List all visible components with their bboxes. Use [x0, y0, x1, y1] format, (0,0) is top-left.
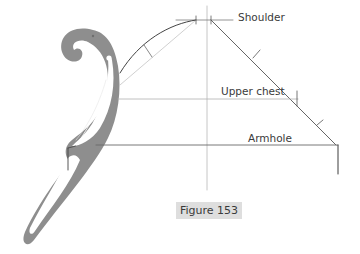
shoulder-label: Shoulder [238, 12, 285, 23]
shoulder-diagonal [211, 20, 336, 145]
armhole-curve [120, 20, 196, 73]
armhole-label: Armhole [248, 133, 292, 144]
figure-caption: Figure 153 [176, 202, 242, 219]
upper-chest-label: Upper chest [221, 86, 285, 97]
french-curve-ruler [23, 29, 119, 245]
